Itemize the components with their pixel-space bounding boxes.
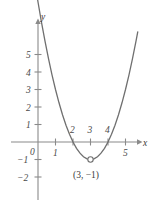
y-tick-label-3: 3 (25, 85, 31, 95)
y-tick-label-neg2: −2 (17, 173, 28, 183)
y-tick-label-2: 2 (26, 103, 31, 113)
x-tick-label-1: 1 (53, 148, 58, 158)
y-tick-label-neg1: −1 (17, 155, 28, 165)
x-axis-label: x (142, 138, 148, 148)
x-tick-label-5: 5 (123, 148, 128, 158)
vertex-point-label: (3, −1) (73, 170, 99, 181)
y-axis-label: y (40, 12, 46, 22)
x-tick-label-3: 3 (87, 125, 93, 135)
x-tick-label-4: 4 (105, 125, 110, 135)
y-tick-label-1: 1 (26, 120, 31, 130)
parabola-graph-figure: y x 0 5 4 3 2 1 −1 −2 1 2 3 4 5 (3, −1) (0, 0, 151, 212)
x-tick-label-2: 2 (70, 125, 75, 135)
y-tick-label-5: 5 (26, 50, 31, 60)
origin-label: 0 (30, 147, 35, 157)
chart-text-layer: y x 0 5 4 3 2 1 −1 −2 1 2 3 4 5 (3, −1) (0, 0, 151, 212)
y-tick-label-4: 4 (26, 68, 31, 78)
